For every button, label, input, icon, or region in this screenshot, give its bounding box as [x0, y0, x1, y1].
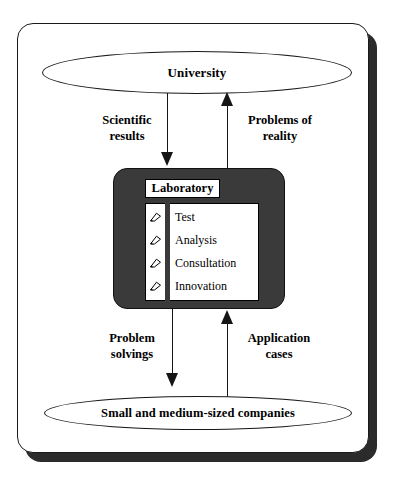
edge-scientific-results-label-line1: Scientific — [93, 113, 161, 129]
edge-problem-solvings-arrowhead — [166, 373, 178, 387]
laboratory-item-innovation: Innovation — [175, 280, 258, 293]
node-laboratory-title-box: Laboratory — [145, 179, 220, 198]
edge-application-cases-line — [227, 323, 229, 406]
laboratory-bullet-column — [145, 203, 165, 301]
pointer-arrow-icon — [149, 212, 162, 223]
edge-application-cases-arrowhead — [221, 310, 233, 324]
node-university-label: University — [168, 65, 227, 81]
node-laboratory-label: Laboratory — [152, 181, 214, 196]
edge-problem-solvings-label-line2: solvings — [98, 347, 166, 363]
edge-problems-of-reality-label: Problems of reality — [232, 113, 328, 144]
edge-problems-of-reality-arrowhead — [221, 92, 233, 106]
edge-problem-solvings-label-line1: Problem — [98, 331, 166, 347]
edge-scientific-results-arrowhead — [161, 152, 173, 166]
edge-problem-solvings-line — [172, 309, 174, 376]
laboratory-service-list: Test Analysis Consultation Innovation — [145, 203, 259, 301]
pointer-arrow-icon — [149, 281, 162, 292]
laboratory-item-test: Test — [175, 211, 258, 224]
node-laboratory: Laboratory — [113, 168, 285, 309]
diagram-canvas: University Scientific results Problems o… — [0, 0, 396, 477]
laboratory-item-consultation: Consultation — [175, 257, 258, 270]
edge-problems-of-reality-label-line2: reality — [232, 129, 328, 145]
node-companies-label: Small and medium-sized companies — [101, 406, 295, 421]
edge-problems-of-reality-line — [227, 105, 229, 168]
edge-application-cases-label-line2: cases — [234, 347, 324, 363]
edge-scientific-results-line — [167, 93, 169, 155]
edge-problems-of-reality-label-line1: Problems of — [232, 113, 328, 129]
laboratory-item-column: Test Analysis Consultation Innovation — [170, 203, 259, 301]
pointer-arrow-icon — [149, 258, 162, 269]
edge-scientific-results-label: Scientific results — [93, 113, 161, 144]
node-companies: Small and medium-sized companies — [44, 396, 352, 430]
edge-scientific-results-label-line2: results — [93, 129, 161, 145]
edge-problem-solvings-label: Problem solvings — [98, 331, 166, 362]
laboratory-item-analysis: Analysis — [175, 234, 258, 247]
edge-application-cases-label: Application cases — [234, 331, 324, 362]
pointer-arrow-icon — [149, 235, 162, 246]
edge-application-cases-label-line1: Application — [234, 331, 324, 347]
node-university: University — [42, 51, 352, 94]
